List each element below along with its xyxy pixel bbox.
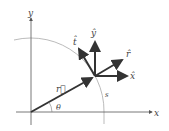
y-hat-label: ŷ <box>90 28 97 38</box>
r-vector-label: r⃗ <box>56 84 66 94</box>
t-hat-label: t̂ <box>73 35 77 47</box>
t-hat-vector <box>79 49 95 76</box>
arc-label: s <box>105 91 109 99</box>
theta-arc <box>49 102 52 112</box>
y-axis-label: y <box>27 8 34 18</box>
x-hat-label: x̂ <box>130 71 135 81</box>
theta-label: θ <box>56 103 61 112</box>
x-axis-label: x <box>154 108 159 118</box>
r-hat-label: r̂ <box>126 49 131 59</box>
polar-unit-vectors-diagram: x y r⃗ θ s x̂ ŷ r̂ t̂ <box>0 0 169 131</box>
r-hat-vector <box>95 60 122 76</box>
